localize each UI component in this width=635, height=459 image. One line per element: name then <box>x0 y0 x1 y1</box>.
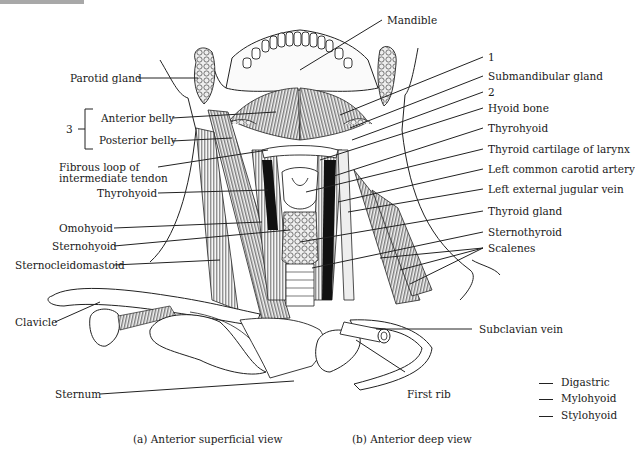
label-sternothyroid: Sternothyroid <box>488 226 562 238</box>
label-thyrohyoid-left: Thyrohyoid <box>97 187 157 199</box>
label-anterior-belly: Anterior belly <box>101 112 174 124</box>
legend-dash-icon <box>539 399 553 400</box>
label-parotid-gland: Parotid gland <box>70 72 142 84</box>
label-submandibular-gland: Submandibular gland <box>488 70 603 82</box>
caption-anterior-deep-view: (b) Anterior deep view <box>352 433 472 445</box>
clavicle-head <box>90 309 120 346</box>
label-sternum: Sternum <box>55 388 101 400</box>
parotid-gland-right <box>378 46 396 106</box>
label-thyrohyoid-right: Thyrohyoid <box>488 122 548 134</box>
mandible-shape <box>210 30 392 91</box>
label-thyroid-cartilage: Thyroid cartilage of larynx <box>488 143 630 155</box>
legend-item-digastric: Digastric <box>539 376 610 388</box>
legend-item-stylohyoid: Stylohyoid <box>539 409 617 421</box>
thyroid-gland <box>282 212 318 266</box>
parotid-gland-left <box>194 48 214 104</box>
label-omohyoid: Omohyoid <box>59 222 113 234</box>
label-sternocleidomastoid: Sternocleidomastoid <box>15 259 125 271</box>
label-left-external-jugular-vein: Left external jugular vein <box>488 183 624 195</box>
legend-dash-icon <box>539 383 553 384</box>
label-mandible: Mandible <box>387 14 437 26</box>
label-hyoid-bone: Hyoid bone <box>488 102 549 114</box>
thyroid-cartilage <box>282 168 318 210</box>
legend-item-mylohyoid: Mylohyoid <box>539 392 616 404</box>
label-posterior-belly: Posterior belly <box>99 134 176 146</box>
label-scalenes: Scalenes <box>488 242 535 254</box>
carotid-dark-right <box>322 160 336 300</box>
label-first-rib: First rib <box>407 388 451 400</box>
label-group-number-3: 3 <box>66 123 73 135</box>
label-left-common-carotid-artery: Left common carotid artery <box>488 163 635 175</box>
label-number-2: 2 <box>488 86 495 98</box>
legend-dash-icon <box>539 416 553 417</box>
label-subclavian-vein: Subclavian vein <box>479 323 563 335</box>
trachea <box>286 264 314 306</box>
label-number-1: 1 <box>488 51 495 63</box>
label-clavicle: Clavicle <box>15 316 57 328</box>
label-sternohyoid: Sternohyoid <box>52 240 117 252</box>
caption-anterior-superficial-view: (a) Anterior superficial view <box>133 433 282 445</box>
label-thyroid-gland: Thyroid gland <box>488 205 562 217</box>
hyoid-bone <box>262 146 338 159</box>
label-fibrous-loop-line2: intermediate tendon <box>59 172 168 184</box>
